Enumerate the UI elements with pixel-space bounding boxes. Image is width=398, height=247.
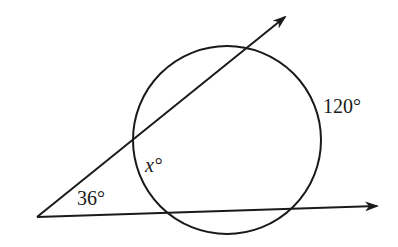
upper-secant-ray [37,17,285,217]
circle [133,46,321,234]
near-arc-label: x° [144,154,162,176]
far-arc-label: 120° [323,95,361,117]
vertex-angle-label: 36° [77,187,105,209]
secant-diagram: 36° x° 120° [0,0,398,247]
